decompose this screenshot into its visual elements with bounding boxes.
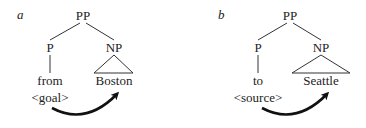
branch-line xyxy=(293,23,321,40)
root-node-pp: PP xyxy=(76,8,90,23)
node-np: NP xyxy=(313,40,330,55)
role-label: <goal> xyxy=(31,90,68,105)
np-triangle xyxy=(94,55,133,73)
word-preposition: from xyxy=(37,73,62,88)
node-np: NP xyxy=(106,40,123,55)
branch-line xyxy=(86,23,114,40)
tree-panel-b: b PP P NP to Seattle <source> xyxy=(218,7,350,114)
word-preposition: to xyxy=(253,73,263,88)
panel-label: a xyxy=(17,7,24,22)
root-node-pp: PP xyxy=(283,8,297,23)
branch-line xyxy=(258,23,287,40)
node-p: P xyxy=(46,40,53,55)
branch-line xyxy=(50,23,80,40)
word-noun: Boston xyxy=(96,73,133,88)
tree-panel-a: a PP P NP from Boston <goal> xyxy=(17,7,133,114)
word-noun: Seattle xyxy=(303,73,339,88)
node-p: P xyxy=(254,40,261,55)
np-triangle xyxy=(292,55,350,73)
panel-label: b xyxy=(218,7,225,22)
syntax-trees-figure: a PP P NP from Boston <goal> b PP P NP t… xyxy=(0,0,366,128)
role-label: <source> xyxy=(234,90,283,105)
